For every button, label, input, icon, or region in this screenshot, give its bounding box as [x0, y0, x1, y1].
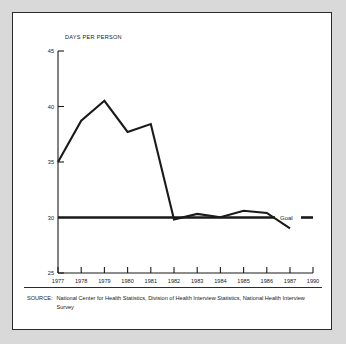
- y-tick-label-35: 35: [48, 159, 54, 165]
- x-tick-label-1978: 1978: [75, 278, 87, 284]
- x-tick-label-1984: 1984: [214, 278, 226, 284]
- source-text: National Center for Health Statistics, D…: [57, 294, 312, 311]
- source-label: SOURCE:: [27, 294, 53, 303]
- source-note: SOURCE: National Center for Health Stati…: [27, 294, 319, 311]
- goal-label: Goal: [280, 215, 293, 221]
- chart-plot-area: 45 40 35 30 25 DAYS PER PERSON: [13, 13, 333, 331]
- x-tick-label-1977: 1977: [52, 278, 64, 284]
- x-tick-group: [58, 267, 313, 273]
- x-tick-label-1986: 1986: [261, 278, 273, 284]
- line-chart-svg: 45 40 35 30 25 DAYS PER PERSON: [13, 13, 333, 331]
- x-tick-label-1987: 1987: [284, 278, 296, 284]
- x-tick-label-1982: 1982: [168, 278, 180, 284]
- screenshot-root: 45 40 35 30 25 DAYS PER PERSON: [0, 0, 346, 344]
- y-axis-title: DAYS PER PERSON: [65, 34, 122, 40]
- x-tick-label-1981: 1981: [145, 278, 157, 284]
- figure-frame: 45 40 35 30 25 DAYS PER PERSON: [12, 12, 332, 330]
- y-tick-label-30: 30: [48, 215, 54, 221]
- y-tick-label-45: 45: [48, 48, 54, 54]
- x-tick-label-1990: 1990: [307, 278, 319, 284]
- source-divider: [24, 287, 322, 288]
- x-tick-label-1985: 1985: [237, 278, 249, 284]
- data-series-line: [58, 101, 290, 229]
- y-tick-label-40: 40: [48, 104, 54, 110]
- x-tick-label-1979: 1979: [98, 278, 110, 284]
- x-tick-label-1980: 1980: [121, 278, 133, 284]
- y-tick-label-25: 25: [48, 270, 54, 276]
- x-tick-label-1983: 1983: [191, 278, 203, 284]
